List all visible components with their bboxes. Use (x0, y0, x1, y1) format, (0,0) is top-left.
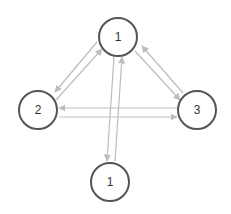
node-label: 1 (115, 30, 122, 44)
edge-arrow-n_bottom-to-n_top (115, 57, 122, 161)
graph-node: 2 (19, 91, 57, 129)
edges-layer (55, 42, 183, 161)
node-label: 1 (107, 175, 114, 189)
edge-arrow-n_top-to-n_right (135, 51, 180, 100)
edge-arrow-n_top-to-n_left (55, 42, 97, 92)
edge-arrow-n_top-to-n_bottom (107, 57, 114, 161)
edge-arrow-n_right-to-n_top (142, 46, 183, 93)
graph-node: 3 (178, 91, 216, 129)
graph-node: 1 (99, 18, 137, 56)
graph-diagram: 1231 (0, 0, 231, 214)
node-label: 2 (35, 103, 42, 117)
nodes-layer: 1231 (19, 18, 216, 201)
graph-node: 1 (91, 163, 129, 201)
edge-arrow-n_left-to-n_top (56, 49, 102, 100)
node-label: 3 (194, 103, 201, 117)
